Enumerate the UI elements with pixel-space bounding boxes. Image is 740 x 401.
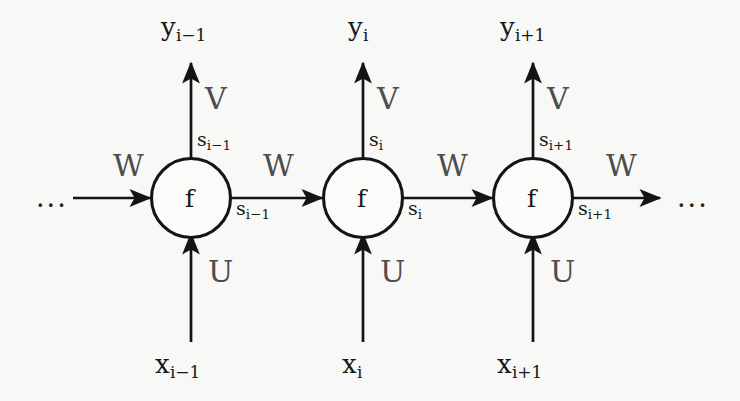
diagram-canvas (0, 0, 740, 401)
weight-v-label-node-1: V (205, 84, 227, 114)
weight-u-label-node-3: U (550, 257, 575, 287)
rnn-unfolding-diagram: f f f ... ... yi−1 V si−1 W W si−1 U xi−… (0, 0, 740, 401)
output-label-node-2: yi (348, 14, 368, 40)
output-label-node-3: yi+1 (500, 14, 545, 40)
output-label-node-1: yi−1 (161, 14, 206, 40)
weight-v-label-node-3: V (547, 84, 569, 114)
weight-u-label-node-1: U (208, 257, 233, 287)
cell-function-label-3: f (527, 186, 536, 211)
cell-function-label-1: f (185, 186, 194, 211)
weight-w-label-node2-to-node3: W (437, 151, 468, 181)
input-arrows (191, 234, 533, 342)
state-out-label-node-2: si (408, 199, 422, 218)
weight-v-label-node-2: V (377, 84, 399, 114)
cell-function-label-2: f (357, 186, 366, 211)
state-top-label-node-1: si−1 (197, 130, 231, 149)
output-arrows (191, 63, 533, 158)
state-top-label-node-2: si (369, 130, 383, 149)
weight-w-label-node1-to-node2: W (263, 151, 294, 181)
state-out-label-node-1: si−1 (236, 199, 270, 218)
ellipsis-left: ... (36, 184, 68, 211)
weight-w-label-out-of-node-3: W (606, 151, 637, 181)
input-label-node-1: xi−1 (155, 351, 200, 377)
state-top-label-node-3: si+1 (539, 130, 573, 149)
weight-w-label-into-node-1: W (113, 151, 144, 181)
input-label-node-2: xi (342, 351, 362, 377)
ellipsis-right: ... (677, 184, 709, 211)
state-out-label-node-3: si+1 (578, 199, 612, 218)
input-label-node-3: xi+1 (497, 351, 542, 377)
weight-u-label-node-2: U (380, 257, 405, 287)
